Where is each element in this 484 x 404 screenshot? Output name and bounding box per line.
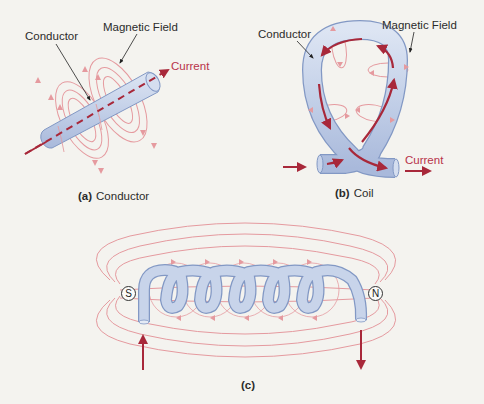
magnetic-field-label-a: Magnetic Field xyxy=(103,22,178,34)
conductor-label-b: Conductor xyxy=(258,29,311,41)
current-label-a: Current xyxy=(171,61,209,73)
current-label-b: Current xyxy=(405,155,443,167)
caption-c-letter: (c) xyxy=(241,379,255,391)
caption-a-letter: (a) xyxy=(78,190,92,202)
caption-c: (c) xyxy=(241,380,259,392)
caption-b: (b)Coil xyxy=(335,188,374,200)
conductor-label-a: Conductor xyxy=(25,31,78,43)
magnetic-field-label-b: Magnetic Field xyxy=(382,20,457,32)
caption-b-text: Coil xyxy=(354,187,374,199)
field-leader xyxy=(120,34,137,63)
panel-c-solenoid xyxy=(96,223,395,370)
south-pole-marker: S xyxy=(121,286,136,301)
north-pole-marker: N xyxy=(368,286,383,301)
caption-a-text: Conductor xyxy=(96,190,149,202)
caption-a: (a)Conductor xyxy=(78,191,149,203)
panel-a-conductor xyxy=(25,34,168,174)
coil-field-leader xyxy=(410,32,414,52)
caption-b-letter: (b) xyxy=(335,187,350,199)
electromagnetism-diagram xyxy=(0,0,484,404)
